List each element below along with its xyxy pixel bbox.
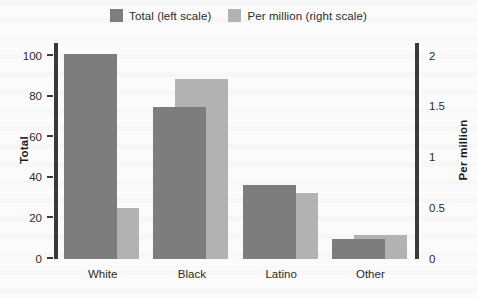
y-axis-right-tick-label: 0.5 (429, 203, 469, 215)
chart-legend: Total (left scale) Per million (right sc… (0, 9, 477, 22)
y-axis-right-tick-label: 2 (429, 51, 469, 63)
y-axis-left-tick-label: 60 (2, 132, 42, 144)
legend-swatch-per-million (228, 9, 241, 22)
y-axis-left-tick-label: 100 (2, 51, 42, 63)
x-axis-label-latino: Latino (237, 268, 326, 280)
y-axis-left-tick-mark (47, 135, 53, 137)
legend-label-total: Total (left scale) (129, 10, 211, 22)
y-axis-left-tick-label: 20 (2, 213, 42, 225)
legend-label-per-million: Per million (right scale) (247, 10, 366, 22)
legend-swatch-total (110, 9, 123, 22)
bar-total-black (153, 107, 206, 259)
chart-figure: Total (left scale) Per million (right sc… (0, 0, 477, 298)
y-axis-right-tick-label: 0 (429, 254, 469, 266)
y-axis-left-tick-mark (47, 257, 53, 259)
bar-group-white (64, 46, 139, 259)
legend-item-per-million: Per million (right scale) (228, 9, 366, 22)
y-axis-right-tick-mark (420, 54, 426, 56)
y-axis-right-tick-mark (420, 206, 426, 208)
y-axis-right-tick-mark (420, 257, 426, 259)
y-axis-right-tick-label: 1.5 (429, 101, 469, 113)
y-axis-left-tick-label: 0 (2, 254, 42, 266)
y-axis-right-tick-label: 1 (429, 152, 469, 164)
bar-total-white (64, 54, 117, 259)
x-axis-label-black: Black (147, 268, 236, 280)
x-axis-label-other: Other (326, 268, 415, 280)
y-axis-left-spine (54, 43, 58, 259)
y-axis-left-tick-mark (47, 176, 53, 178)
y-axis-right-spine (415, 43, 419, 259)
y-axis-right-tick-mark (420, 156, 426, 158)
y-axis-left-tick-mark (47, 216, 53, 218)
y-axis-right-title: Per million (457, 120, 469, 181)
bar-group-other (332, 46, 407, 259)
plot-area: Total Per million 020406080100 00.511.52… (58, 46, 415, 259)
bar-group-black (153, 46, 228, 259)
y-axis-left-tick-mark (47, 95, 53, 97)
bar-total-other (332, 239, 385, 259)
y-axis-left-tick-mark (47, 54, 53, 56)
bar-group-latino (243, 46, 318, 259)
x-axis-label-white: White (58, 268, 147, 280)
bar-total-latino (243, 185, 296, 259)
y-axis-left-tick-label: 40 (2, 172, 42, 184)
y-axis-right-tick-mark (420, 105, 426, 107)
legend-item-total: Total (left scale) (110, 9, 211, 22)
y-axis-left-tick-label: 80 (2, 91, 42, 103)
